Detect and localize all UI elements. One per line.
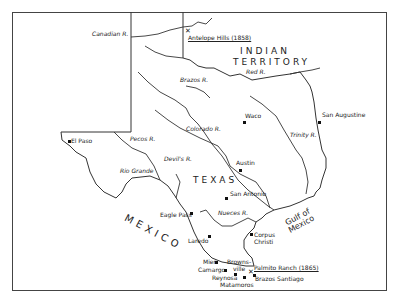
label-trinity-river: Trinity R. [290, 132, 317, 138]
corpus-christi-dot [250, 233, 253, 236]
label-corpus-christi: Corpus Christi [254, 232, 275, 246]
label-palmito-ranch: Palmito Ranch (1865) [254, 265, 319, 271]
trinity-river [250, 96, 308, 194]
label-antelope-hills: Antelope Hills (1858) [188, 35, 251, 41]
matamoros-dot [243, 276, 246, 279]
san-antonio-dot [225, 197, 228, 200]
red-river-east [290, 68, 320, 74]
label-brazos-santiago: Brazos Santiago [255, 276, 304, 282]
label-el-paso: El Paso [71, 138, 92, 144]
label-nueces-river: Nueces R. [218, 210, 248, 216]
red-river [145, 46, 183, 58]
brazos-upper [186, 86, 210, 98]
label-waco: Waco [245, 113, 261, 119]
label-matamoros: Matamoros [220, 282, 254, 288]
nueces-upper [200, 210, 206, 212]
devils-river [176, 174, 180, 198]
label-indian-territory-1: INDIAN [240, 47, 290, 56]
austin-dot [239, 169, 242, 172]
waco-dot [243, 121, 246, 124]
label-san-augustine: San Augustine [322, 112, 365, 118]
label-indian-territory-2: TERRITORY [233, 58, 310, 67]
label-mier: Mier [203, 259, 216, 265]
label-red-river: Red R. [246, 69, 266, 75]
map-frame [13, 13, 387, 291]
label-brazos-river: Brazos R. [180, 77, 208, 83]
label-san-antonio: San Antonio [230, 191, 266, 197]
corpus-line-2: Christi [254, 239, 275, 246]
label-texas: TEXAS [193, 176, 237, 185]
label-eagle-pass: Eagle Pass [160, 212, 192, 218]
label-austin: Austin [236, 160, 255, 166]
label-canadian-river: Canadian R. [92, 31, 128, 37]
san-augustine-dot [318, 121, 321, 124]
label-devils-river: Devil's R. [164, 156, 192, 162]
label-rio-grande: Rio Grande [120, 168, 154, 174]
label-pecos-river: Pecos R. [130, 136, 155, 142]
label-colorado-river: Colorado R. [186, 126, 221, 132]
label-laredo: Laredo [188, 238, 209, 244]
label-camargo: Camargo [198, 267, 225, 273]
texas-map [0, 0, 397, 301]
